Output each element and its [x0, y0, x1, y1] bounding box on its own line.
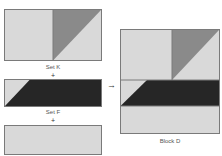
block-d-label: Block D [120, 138, 220, 144]
set-k-unit [4, 9, 102, 61]
set-f-shape [4, 79, 102, 107]
set-f-label: Set F [4, 109, 102, 115]
block-d-shape [120, 29, 220, 134]
set-k-shape [4, 9, 102, 61]
plus-icon: + [4, 72, 102, 79]
plain-strip-unit [4, 125, 102, 155]
set-f-unit [4, 79, 102, 107]
plus-icon: + [4, 117, 102, 124]
plain-strip-shape [4, 125, 102, 155]
set-k-label: Set K [4, 64, 102, 70]
arrow-right-icon: → [107, 80, 116, 90]
block-d-assembled [120, 29, 220, 134]
